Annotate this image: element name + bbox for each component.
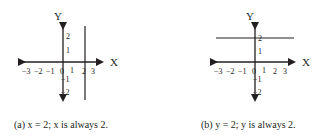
x-tick-b: 1 [262, 66, 266, 75]
y-tick-b: 1 [258, 47, 262, 56]
y-tick-a: −2 [61, 88, 70, 97]
x-tick-b: −3 [214, 67, 223, 76]
x-tick-b: −1 [238, 67, 247, 76]
y-tick-b: −2 [253, 88, 262, 97]
caption-b: (b) y = 2; y is always 2. [201, 119, 296, 130]
x-tick-a: 1 [70, 66, 74, 75]
y-tick-b: 2 [258, 34, 262, 43]
x-tick-b: −2 [226, 67, 235, 76]
x-tick-a: −2 [34, 67, 43, 76]
x-tick-a: 3 [91, 67, 95, 76]
y-tick-a: 1 [66, 46, 70, 55]
x-axis-label-a: X [110, 56, 118, 68]
x-tick-b: 3 [283, 67, 287, 76]
figure-canvas: X Y −3 −2 −1 0 1 2 3 2 1 −1 −2 X Y −3 −2… [0, 0, 327, 136]
x-tick-b: 2 [273, 67, 277, 76]
graph-a: X Y −3 −2 −1 0 1 2 3 2 1 −1 −2 [22, 10, 118, 100]
x-axis-label-b: X [302, 56, 310, 68]
y-tick-a: −1 [61, 75, 70, 84]
y-axis-label-b: Y [246, 10, 254, 22]
caption-a: (a) x = 2; x is always 2. [14, 119, 108, 130]
y-tick-b: −1 [253, 75, 262, 84]
x-tick-a: −1 [46, 67, 55, 76]
x-tick-a: −3 [22, 67, 31, 76]
y-axis-label-a: Y [54, 10, 62, 22]
graph-b: X Y −3 −2 −1 0 1 2 3 2 1 −1 −2 [214, 10, 310, 100]
y-tick-a: 2 [66, 32, 70, 41]
x-tick-a: 2 [82, 67, 86, 76]
